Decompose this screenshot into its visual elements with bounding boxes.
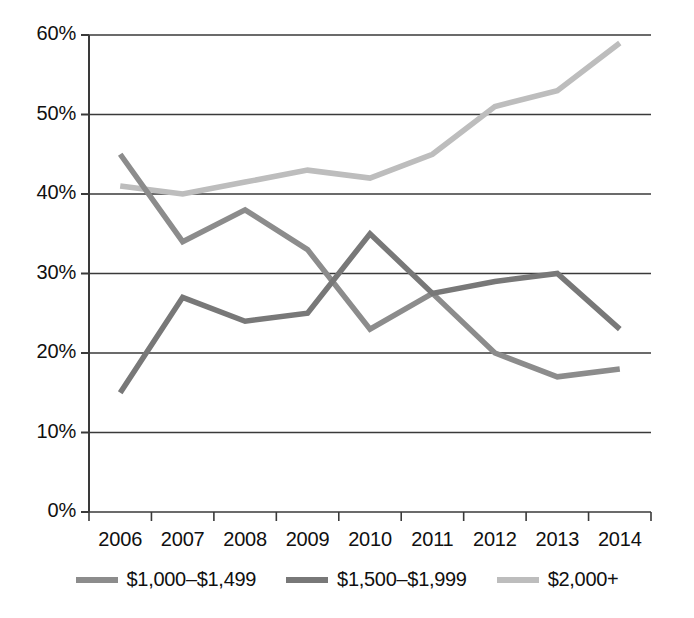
x-axis-tick-label: 2013 — [526, 528, 588, 551]
series-line — [120, 43, 620, 194]
x-axis-tick-label: 2014 — [589, 528, 651, 551]
series-line — [120, 154, 620, 377]
y-axis-tick-label: 60% — [37, 22, 76, 45]
legend-label: $2,000+ — [548, 568, 619, 591]
legend-swatch-icon — [286, 577, 328, 583]
legend-item[interactable]: $2,000+ — [497, 568, 619, 591]
legend-swatch-icon — [497, 577, 539, 583]
y-axis-tick-label: 20% — [37, 340, 76, 363]
legend-label: $1,000–$1,499 — [127, 568, 257, 591]
x-axis-tick-label: 2011 — [401, 528, 463, 551]
x-axis-tick-label: 2008 — [214, 528, 276, 551]
legend-item[interactable]: $1,000–$1,499 — [76, 568, 257, 591]
legend-label: $1,500–$1,999 — [337, 568, 467, 591]
series-line — [120, 234, 620, 393]
y-axis-tick-label: 10% — [37, 420, 76, 443]
plot-area — [0, 0, 694, 618]
y-axis-tick-label: 0% — [47, 499, 76, 522]
line-chart: 0%10%20%30%40%50%60% 2006200720082009201… — [0, 0, 694, 618]
y-axis-tick-label: 50% — [37, 102, 76, 125]
x-axis-tick-label: 2006 — [89, 528, 151, 551]
legend-swatch-icon — [76, 577, 118, 583]
x-axis-tick-label: 2010 — [339, 528, 401, 551]
y-axis-tick-label: 40% — [37, 181, 76, 204]
x-axis-tick-label: 2007 — [151, 528, 213, 551]
chart-legend: $1,000–$1,499$1,500–$1,999$2,000+ — [0, 568, 694, 591]
x-axis-tick-label: 2009 — [276, 528, 338, 551]
legend-item[interactable]: $1,500–$1,999 — [286, 568, 467, 591]
y-axis-tick-label: 30% — [37, 261, 76, 284]
x-axis-tick-label: 2012 — [464, 528, 526, 551]
